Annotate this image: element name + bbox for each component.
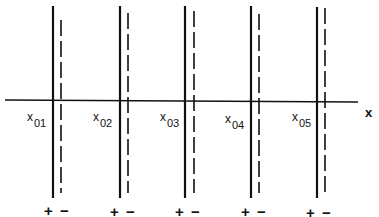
position-label-base: x	[27, 110, 33, 124]
position-label-base: x	[292, 110, 298, 124]
position-label-subscript: 03	[167, 117, 179, 129]
plus-sign-4: +	[241, 204, 250, 217]
plus-sign-1: +	[44, 203, 53, 217]
diagram-canvas	[0, 0, 379, 217]
minus-sign-2: −	[126, 204, 135, 217]
position-label-subscript: 04	[232, 119, 244, 131]
position-label-x05: x05	[292, 108, 310, 124]
sheet-pair-3	[185, 6, 194, 198]
position-label-x02: x02	[93, 108, 111, 124]
position-label-x01: x01	[27, 108, 45, 124]
position-label-subscript: 02	[100, 117, 112, 129]
minus-sign-3: −	[191, 204, 200, 217]
position-label-base: x	[225, 112, 231, 126]
sheet-pair-2	[120, 6, 128, 198]
sheet-pair-1	[53, 6, 61, 198]
minus-sign-1: −	[60, 203, 69, 217]
position-label-base: x	[93, 110, 99, 124]
position-label-x03: x03	[160, 108, 178, 124]
position-label-subscript: 05	[299, 117, 311, 129]
position-label-x04: x04	[225, 110, 243, 126]
position-label-subscript: 01	[34, 117, 46, 129]
plus-sign-2: +	[110, 204, 119, 217]
position-label-base: x	[160, 110, 166, 124]
x-axis	[5, 100, 358, 102]
minus-sign-4: −	[257, 204, 266, 217]
plus-sign-3: +	[175, 204, 184, 217]
x-axis-label: x	[365, 106, 372, 119]
minus-sign-5: −	[322, 205, 331, 217]
plus-sign-5: +	[306, 205, 315, 217]
